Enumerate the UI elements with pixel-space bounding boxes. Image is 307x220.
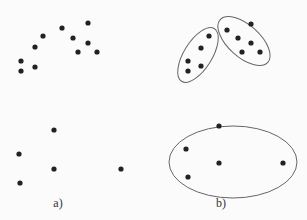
data-point	[198, 63, 203, 68]
data-point	[216, 123, 221, 128]
data-point	[185, 68, 190, 73]
cluster-ellipse	[210, 8, 279, 75]
cluster-ellipse	[169, 126, 297, 198]
data-point	[94, 49, 99, 54]
panel-b-label: b)	[216, 196, 226, 211]
data-point	[17, 180, 22, 185]
data-point	[40, 33, 45, 38]
data-point	[235, 35, 240, 40]
data-point	[198, 45, 203, 50]
data-point	[118, 166, 123, 171]
data-point	[70, 35, 75, 40]
data-point	[18, 58, 23, 63]
panel-a-label: a)	[53, 196, 62, 211]
scatter-plot-area	[0, 0, 307, 220]
data-point	[248, 40, 253, 45]
data-point	[185, 174, 190, 179]
data-point	[280, 160, 285, 165]
data-point	[32, 64, 37, 69]
data-point	[59, 25, 64, 30]
data-point	[239, 49, 244, 54]
data-point	[75, 49, 80, 54]
data-point	[32, 44, 37, 49]
clustering-diagram: a) b)	[0, 0, 307, 220]
data-point	[18, 68, 23, 73]
cluster-ellipse	[170, 21, 227, 88]
data-point	[85, 40, 90, 45]
data-point	[183, 146, 188, 151]
data-point	[257, 49, 262, 54]
data-point	[224, 27, 229, 32]
data-point	[51, 166, 56, 171]
data-point	[185, 58, 190, 63]
data-point	[16, 151, 21, 156]
data-point	[216, 160, 221, 165]
data-point	[51, 127, 56, 132]
data-point	[248, 21, 253, 26]
data-point	[85, 20, 90, 25]
data-point	[206, 33, 211, 38]
